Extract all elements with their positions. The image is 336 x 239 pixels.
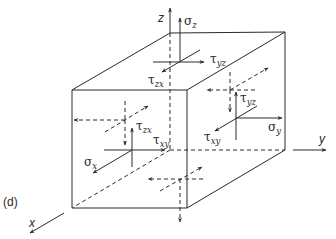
left-face-hidden-stresses [207,68,268,112]
sigma-z-label: σz [184,14,197,30]
sigma-x-label: σx [84,155,97,171]
stress-cube-diagram: z y x (d) σz τyz τzx τyz σy τxy τzx τxy … [0,0,336,239]
y-axis-label: y [318,132,326,146]
bottom-face-hidden-stresses [148,167,203,222]
x-axis-label: x [28,216,36,230]
tau-xy-front-label: τxy [153,133,169,149]
tau-zx-top-label: τzx [148,73,164,89]
tau-yz-right-label: τyz [240,91,256,107]
tau-xy-right-label: τxy [204,130,220,146]
panel-label: (d) [3,195,18,209]
tau-zx-front-label: τzx [136,119,152,135]
x-axis-arrow [30,213,64,233]
sigma-y-label: σy [268,120,281,136]
z-axis-label: z [157,11,164,25]
tau-yz-top-label: τyz [210,52,226,68]
